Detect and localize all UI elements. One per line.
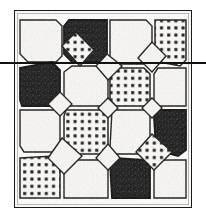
octagon-tile xyxy=(110,158,150,198)
figure-root xyxy=(0,0,206,219)
horizontal-rule xyxy=(0,62,206,64)
octagon-tile xyxy=(20,110,60,152)
tile-pattern-drawing xyxy=(14,10,192,208)
octagon-tile xyxy=(20,20,62,62)
tiled-floor-plate xyxy=(14,10,192,208)
octagon-tile xyxy=(110,68,150,106)
octagon-tile xyxy=(154,68,186,106)
